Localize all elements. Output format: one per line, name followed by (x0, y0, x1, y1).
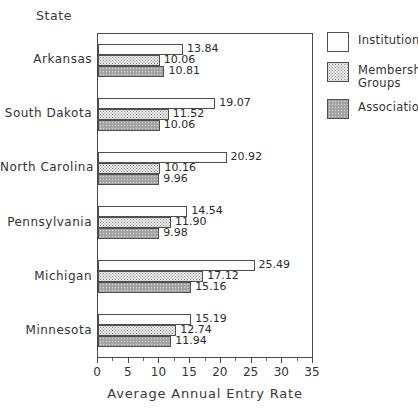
bar-associations (98, 228, 159, 239)
bar-group: 20.9210.169.96 (98, 152, 313, 188)
y-tick-label-north-carolina: North Carolina (0, 160, 92, 174)
legend-swatch-membership-groups (327, 62, 349, 82)
bar-row: 10.16 (98, 163, 314, 174)
bar-value-label: 19.07 (215, 96, 251, 109)
legend-swatch-institutions (327, 32, 349, 52)
legend-item[interactable]: Membership Groups (327, 62, 415, 89)
bar-row: 11.90 (98, 217, 314, 228)
bar-value-label: 9.96 (159, 172, 188, 185)
legend-item[interactable]: Associations (327, 99, 415, 119)
x-tick-label: 0 (93, 365, 101, 379)
bar-associations (98, 66, 164, 77)
x-axis-title: Average Annual Entry Rate (97, 386, 313, 401)
bar-membership-groups (98, 55, 160, 66)
x-tick-label: 30 (274, 365, 289, 379)
x-tick-mark (158, 358, 159, 363)
bar-value-label: 9.98 (159, 226, 188, 239)
x-tick-minor (143, 358, 144, 361)
x-tick-mark (97, 358, 98, 363)
bar-membership-groups (98, 109, 169, 120)
x-tick-mark (251, 358, 252, 363)
x-tick-mark (220, 358, 221, 363)
bar-row: 20.92 (98, 152, 314, 163)
bar-value-label: 11.94 (171, 334, 207, 347)
bar-row: 11.52 (98, 109, 314, 120)
bar-row: 10.06 (98, 120, 314, 131)
bar-row: 15.16 (98, 282, 314, 293)
bar-row: 10.81 (98, 66, 314, 77)
legend-swatch-associations (327, 99, 349, 119)
x-tick-minor (266, 358, 267, 361)
bar-row: 11.94 (98, 336, 314, 347)
plot-frame-top (97, 33, 313, 34)
bar-row: 10.06 (98, 55, 314, 66)
bar-group: 25.4917.1215.16 (98, 260, 313, 296)
bar-group: 14.5411.909.98 (98, 206, 313, 242)
legend-label: Institutions (358, 32, 414, 47)
bar-value-label: 25.49 (255, 258, 291, 271)
bar-membership-groups (98, 163, 160, 174)
bar-membership-groups (98, 271, 203, 282)
legend-item[interactable]: Institutions (327, 32, 415, 52)
y-tick-label-michigan: Michigan (0, 269, 92, 283)
y-tick-label-pennsylvania: Pennsylvania (0, 215, 92, 229)
x-tick-minor (205, 358, 206, 361)
y-tick-label-south-dakota: South Dakota (0, 106, 92, 120)
bar-value-label: 15.16 (191, 280, 227, 293)
x-tick-minor (174, 358, 175, 361)
bar-group: 13.8410.0610.81 (98, 44, 313, 80)
x-tick-label: 5 (124, 365, 132, 379)
bar-associations (98, 174, 159, 185)
chart-legend: InstitutionsMembership GroupsAssociation… (327, 32, 415, 129)
x-tick-mark (312, 358, 313, 363)
bar-value-label: 10.06 (160, 118, 196, 131)
y-axis-tick-labels: ArkansasSouth DakotaNorth CarolinaPennsy… (0, 33, 92, 358)
x-tick-label: 10 (151, 365, 166, 379)
x-tick-minor (112, 358, 113, 361)
legend-label: Associations (358, 99, 414, 114)
x-tick-minor (297, 358, 298, 361)
x-tick-mark (189, 358, 190, 363)
bar-membership-groups (98, 325, 176, 336)
bar-row: 9.98 (98, 228, 314, 239)
bar-chart-figure: State ArkansasSouth DakotaNorth Carolina… (0, 0, 418, 416)
bar-associations (98, 120, 160, 131)
bar-row: 13.84 (98, 44, 314, 55)
bar-group: 19.0711.5210.06 (98, 98, 313, 134)
bar-row: 19.07 (98, 98, 314, 109)
bar-associations (98, 282, 191, 293)
plot-frame-right (312, 33, 313, 358)
bar-associations (98, 336, 171, 347)
plot-area: 13.8410.0610.8119.0711.5210.0620.9210.16… (97, 33, 313, 358)
y-tick-label-minnesota: Minnesota (0, 323, 92, 337)
x-tick-mark (281, 358, 282, 363)
bar-group: 15.1912.7411.94 (98, 314, 313, 350)
y-axis-title: State (36, 8, 72, 23)
x-tick-label: 25 (243, 365, 258, 379)
x-tick-label: 35 (304, 365, 319, 379)
x-tick-label: 20 (212, 365, 227, 379)
plot-frame-left-axis (97, 33, 98, 358)
y-tick-label-arkansas: Arkansas (0, 52, 92, 66)
x-tick-mark (128, 358, 129, 363)
bar-row: 9.96 (98, 174, 314, 185)
x-tick-label: 15 (182, 365, 197, 379)
bar-value-label: 10.81 (164, 64, 200, 77)
legend-label: Membership Groups (358, 62, 414, 89)
bar-value-label: 20.92 (227, 150, 263, 163)
x-tick-minor (235, 358, 236, 361)
